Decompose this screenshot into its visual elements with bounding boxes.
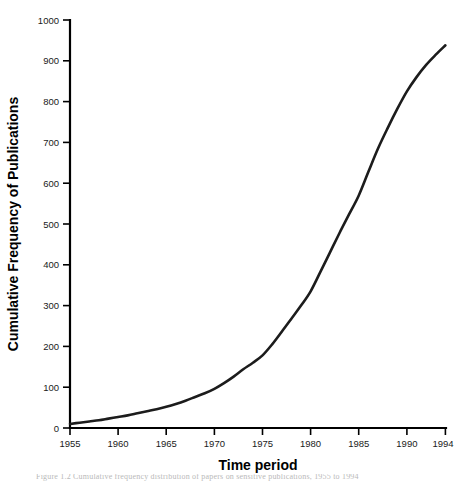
x-tick-label: 1990 [396,438,417,449]
y-tick-label: 700 [43,137,59,148]
y-tick-label: 500 [43,219,59,230]
x-tick-label: 1975 [252,438,273,449]
x-tick-label: 1970 [204,438,225,449]
y-tick-label: 1000 [38,15,59,26]
figure-caption: Figure 1.2 Cumulative frequency distribu… [36,474,436,481]
y-axis-title: Cumulative Frequency of Publications [5,97,21,352]
x-tick-label: 1960 [108,438,129,449]
x-tick-label: 1985 [348,438,369,449]
x-tick-label: 1965 [156,438,177,449]
cumulative-frequency-line-chart: 1000 900 800 700 600 500 400 300 200 100… [0,0,459,483]
x-tick-label: 1980 [300,438,321,449]
x-tick-label: 1994 [432,438,453,449]
y-tick-label: 100 [43,382,59,393]
figure-caption-strip: Figure 1.2 Cumulative frequency distribu… [0,474,459,483]
y-tick-label: 800 [43,96,59,107]
x-axis-title: Time period [218,457,297,473]
y-tick-label: 900 [43,55,59,66]
figure-container: 1000 900 800 700 600 500 400 300 200 100… [0,0,459,483]
x-tick-label: 1955 [59,438,80,449]
y-tick-label: 600 [43,178,59,189]
y-tick-label: 200 [43,341,59,352]
chart-background [0,0,459,483]
y-tick-label: 0 [54,423,59,434]
y-tick-label: 300 [43,300,59,311]
y-tick-label: 400 [43,259,59,270]
